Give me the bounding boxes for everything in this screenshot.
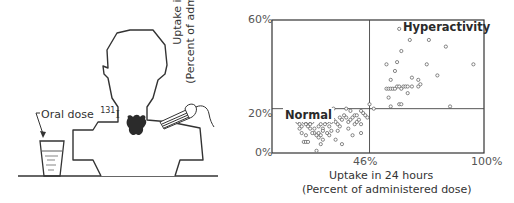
data-point: [372, 107, 375, 110]
y-tick-60: 60%: [248, 13, 272, 26]
data-point: [304, 134, 307, 137]
data-point: [368, 103, 371, 106]
data-point: [408, 38, 411, 41]
annotation-normal: Normal: [283, 108, 334, 122]
data-point: [425, 63, 428, 66]
data-point: [398, 27, 401, 30]
data-point: [406, 92, 409, 95]
data-point: [393, 69, 396, 72]
data-point: [309, 127, 312, 130]
data-point: [406, 85, 409, 88]
data-point: [349, 109, 352, 112]
data-point: [444, 45, 447, 48]
data-point: [330, 129, 333, 132]
data-point: [366, 116, 369, 119]
data-point: [317, 136, 320, 139]
data-point: [472, 63, 475, 66]
x-axis-subtitle: (Percent of administered dose): [302, 183, 472, 196]
annotation-hyperactivity: Hyperactivity: [403, 20, 490, 34]
data-point: [319, 143, 322, 146]
data-point: [338, 125, 341, 128]
data-point: [410, 85, 413, 88]
data-point: [328, 134, 331, 137]
data-point: [355, 114, 358, 117]
data-point: [300, 131, 303, 134]
data-point: [417, 78, 420, 81]
data-point: [387, 96, 390, 99]
data-point: [334, 138, 337, 141]
data-point: [306, 140, 309, 143]
y-tick-20: 20%: [248, 107, 272, 120]
data-point: [400, 103, 403, 106]
data-point: [419, 83, 422, 86]
data-points: [296, 27, 475, 152]
x-tick-100: 100%: [471, 155, 502, 168]
data-point: [345, 116, 348, 119]
data-point: [347, 127, 350, 130]
data-point: [359, 123, 362, 126]
data-point: [359, 109, 362, 112]
data-point: [359, 131, 362, 134]
data-point: [389, 78, 392, 81]
data-point: [345, 107, 348, 110]
data-point: [340, 118, 343, 121]
data-point: [298, 127, 301, 130]
data-point: [427, 38, 430, 41]
data-point: [410, 76, 413, 79]
data-point: [319, 123, 322, 126]
y-tick-0: 0%: [255, 146, 272, 159]
data-point: [321, 129, 324, 132]
plot-frame: [272, 20, 484, 153]
data-point: [395, 61, 398, 64]
data-point: [351, 134, 354, 137]
data-point: [436, 74, 439, 77]
data-point: [385, 63, 388, 66]
x-tick-46: 46%: [353, 155, 377, 168]
data-point: [313, 127, 316, 130]
data-point: [311, 131, 314, 134]
data-point: [328, 125, 331, 128]
data-point: [400, 49, 403, 52]
data-point: [448, 105, 451, 108]
x-axis-title: Uptake in 24 hours: [329, 169, 433, 182]
data-point: [357, 118, 360, 121]
data-point: [321, 138, 324, 141]
data-point: [336, 129, 339, 132]
data-point: [389, 105, 392, 108]
data-point: [315, 149, 318, 152]
data-point: [340, 143, 343, 146]
